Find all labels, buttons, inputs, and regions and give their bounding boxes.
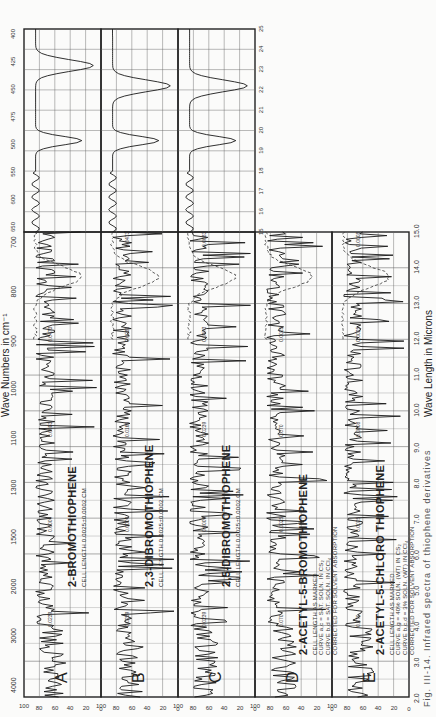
- micron-tick: 12.0: [413, 332, 420, 346]
- y-tick-label: 60: [51, 705, 58, 711]
- y-tick-label: 100: [19, 703, 29, 709]
- panel-B: [101, 29, 178, 697]
- y-tick-label: 80: [36, 705, 43, 711]
- micron-tick: 3.0: [413, 658, 420, 668]
- y-tick-label: 60: [282, 705, 289, 711]
- wavenumber-tick: 1300: [10, 480, 17, 496]
- micron-tick-extended: 18: [258, 167, 264, 174]
- micron-tick-extended: 23: [258, 66, 264, 73]
- thickness-label: 0.0473: [124, 232, 130, 247]
- y-tick-label: 40: [221, 705, 228, 711]
- y-tick-label: 100: [173, 703, 183, 709]
- y-tick-label: 60: [128, 705, 135, 711]
- wavenumber-tick: 900: [10, 335, 17, 347]
- y-tick-label: 20: [390, 705, 397, 711]
- micron-tick: 14.0: [413, 260, 420, 274]
- rotated-figure: 100806040200A2-BROMOTHIOPHENECELL LENGTH…: [0, 0, 436, 717]
- y-tick-label: 20: [159, 705, 166, 711]
- cell-length: CELL LENGTH 0.0025±0.0002 CM: [235, 488, 241, 587]
- cell-length: CELL LENGTH 0.0025±0.0002 CM: [81, 488, 87, 587]
- micron-tick: 9.0: [413, 443, 420, 453]
- y-tick-label: 100: [250, 703, 260, 709]
- micron-tick: 6.0: [413, 550, 420, 560]
- micron-tick: 5.0: [413, 586, 420, 596]
- thickness-label: 0.0239: [201, 422, 207, 437]
- wavenumber-tick-extended: 550: [10, 167, 16, 177]
- wavenumber-tick-extended: 600: [10, 194, 16, 204]
- wavenumber-tick: 3000: [10, 628, 17, 644]
- micron-tick-extended: 19: [258, 147, 264, 154]
- wavenumber-tick-extended: 475: [10, 112, 16, 122]
- wavenumber-tick-extended: 500: [10, 139, 16, 149]
- thickness-label: 0.0025: [355, 327, 361, 342]
- thickness-label: 0.0025: [278, 517, 284, 532]
- thickness-label: 0.0009: [124, 517, 130, 532]
- thickness-label: 0.0009: [47, 517, 53, 532]
- thickness-label: 0.0083: [47, 422, 53, 437]
- thickness-label: 0.070: [278, 614, 284, 627]
- thickness-label: 0.0473: [47, 327, 53, 342]
- thickness-label: 0.0083: [124, 327, 130, 342]
- thickness-label: 0.0165: [124, 422, 130, 437]
- micron-tick-extended: 15: [258, 228, 264, 235]
- y-tick-label: 80: [190, 705, 197, 711]
- wavenumber-tick: 800: [10, 286, 17, 298]
- y-tick-label: 20: [236, 705, 243, 711]
- panel-note: CORRECTED FOR SOLVENT ABSORPTION: [332, 526, 338, 655]
- panel-letter: D: [284, 671, 302, 683]
- y-tick-label: 100: [327, 703, 337, 709]
- micron-tick-extended: 21: [258, 107, 264, 114]
- compound-name: 2-ACETYL-5-CHLORO THIOPHENE: [374, 465, 386, 655]
- panel-note: CURVE b,d = SAT. SOLN. IN CCl₄: [325, 558, 331, 655]
- micron-tick-extended: 20: [258, 127, 264, 134]
- wavenumber-tick: 2000: [10, 579, 17, 595]
- spectra-plot: [0, 0, 436, 717]
- thickness-label: 0.0025: [278, 327, 284, 342]
- top-axis-title: Wave Numbers in cm⁻¹: [0, 313, 11, 417]
- y-tick-label: 40: [144, 705, 151, 711]
- micron-tick-extended: 17: [258, 188, 264, 195]
- panel-letter: E: [361, 672, 379, 683]
- thickness-label: 0.0008: [355, 232, 361, 247]
- compound-name: 2-ACETYL-5-BROMOTHIOPHENE: [297, 474, 309, 655]
- wavenumber-tick: 1000: [10, 381, 17, 397]
- thickness-label: 0.070: [355, 614, 361, 627]
- thickness-label: 0.0239: [124, 612, 130, 627]
- wavenumber-tick-extended: 400: [10, 29, 16, 39]
- wavenumber-tick-extended: 650: [10, 222, 16, 232]
- panel-note: CURVE a,c = SAT. SOLN. IN CS₂: [318, 560, 324, 655]
- y-tick-label: 0: [407, 706, 410, 712]
- micron-tick-extended: 24: [258, 46, 264, 53]
- micron-tick: 7.0: [413, 514, 420, 524]
- micron-tick: 2.0: [413, 693, 420, 703]
- wavenumber-tick-extended: 450: [10, 84, 16, 94]
- micron-tick: 11.0: [413, 368, 420, 381]
- wavenumber-tick: 4000: [10, 677, 17, 693]
- compound-name: 2,5-DIBROMOTHIOPHENE: [220, 445, 232, 587]
- panel-C: [178, 29, 255, 697]
- y-tick-label: 60: [205, 705, 212, 711]
- panel-letter: C: [207, 671, 225, 683]
- wavenumber-tick-extended: 425: [10, 57, 16, 67]
- y-tick-label: 80: [344, 705, 351, 711]
- panel-letter: B: [130, 672, 148, 683]
- y-tick-label: 20: [82, 705, 89, 711]
- y-tick-label: 20: [313, 705, 320, 711]
- thickness-label: 0.0025: [355, 517, 361, 532]
- panel-note: CURVE b,c,d = 3% SOLN. (WT) IN CCl₄: [402, 540, 408, 655]
- wavenumber-tick: 1100: [10, 431, 17, 446]
- thickness-label: 0.0239: [201, 612, 207, 627]
- y-tick-label: 40: [298, 705, 305, 711]
- bottom-axis-title: Wave Length in Microns: [423, 310, 434, 417]
- y-tick-label: 100: [96, 703, 106, 709]
- micron-tick: 4.0: [413, 622, 420, 632]
- panel-letter: A: [53, 672, 71, 683]
- compound-name: 2-BROMOTHIOPHENE: [66, 466, 78, 587]
- y-tick-label: 80: [113, 705, 120, 711]
- cell-length: CELL LENGTH 0.0025±0.0002 CM: [158, 488, 164, 587]
- micron-tick: 10.0: [413, 403, 420, 417]
- y-tick-label: 40: [375, 705, 382, 711]
- panel-A: [24, 29, 101, 697]
- y-tick-label: 60: [359, 705, 366, 711]
- thickness-label: 0.070: [278, 424, 284, 437]
